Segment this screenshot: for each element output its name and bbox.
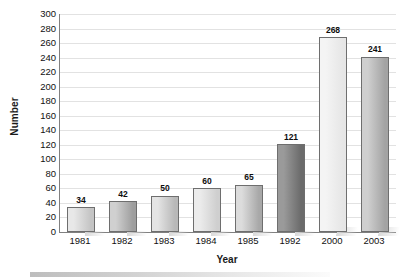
bar-2003[interactable] xyxy=(361,57,389,232)
bar-value-label-2003: 241 xyxy=(368,45,382,54)
bar-slot: 268 xyxy=(312,14,354,232)
bar-1985[interactable] xyxy=(235,185,263,232)
y-axis-tick-labels: 3002802602402202001801601401201008060402… xyxy=(24,14,56,232)
y-axis-tick-100: 100 xyxy=(24,155,56,165)
bar-1981[interactable] xyxy=(67,207,95,232)
bar-chart: Number 300280260240220200180160140120100… xyxy=(0,0,413,278)
y-axis-tick-60: 60 xyxy=(24,184,56,194)
y-axis-tick-120: 120 xyxy=(24,140,56,150)
y-axis-tick-160: 160 xyxy=(24,111,56,121)
bar-1984[interactable] xyxy=(193,188,221,232)
y-axis-tick-80: 80 xyxy=(24,169,56,179)
y-axis-tick-220: 220 xyxy=(24,67,56,77)
bar-slot: 60 xyxy=(186,14,228,232)
x-axis-tick-1985: 1985 xyxy=(237,236,258,246)
bars-layer: 3442506065121268241 xyxy=(60,14,396,232)
bar-slot: 241 xyxy=(354,14,396,232)
bar-1992[interactable] xyxy=(277,144,305,232)
x-axis-tick-1992: 1992 xyxy=(279,236,300,246)
y-axis-tick-40: 40 xyxy=(24,198,56,208)
bar-slot: 50 xyxy=(144,14,186,232)
y-axis-tick-240: 240 xyxy=(24,53,56,63)
x-axis-tick-1984: 1984 xyxy=(195,236,216,246)
y-axis-tick-280: 280 xyxy=(24,24,56,34)
x-axis-tick-2000: 2000 xyxy=(321,236,342,246)
gridline-0 xyxy=(60,232,396,233)
bar-slot: 42 xyxy=(102,14,144,232)
y-axis-tick-300: 300 xyxy=(24,9,56,19)
x-axis-title: Year xyxy=(59,254,395,265)
x-axis-tick-1981: 1981 xyxy=(69,236,90,246)
plot-area: 3442506065121268241 xyxy=(59,14,396,233)
y-axis-title-label: Number xyxy=(9,97,20,135)
bar-2000[interactable] xyxy=(319,37,347,232)
bar-value-label-1984: 60 xyxy=(202,177,211,186)
bar-value-label-1982: 42 xyxy=(118,190,127,199)
y-axis-tick-0: 0 xyxy=(24,227,56,237)
bar-1983[interactable] xyxy=(151,196,179,232)
y-axis-tick-260: 260 xyxy=(24,38,56,48)
x-axis-tick-labels: 19811982198319841985199220002003 xyxy=(59,236,395,252)
y-axis-tick-20: 20 xyxy=(24,213,56,223)
y-axis-tick-180: 180 xyxy=(24,96,56,106)
bar-value-label-2000: 268 xyxy=(326,26,340,35)
bar-value-label-1981: 34 xyxy=(76,196,85,205)
x-axis-tick-1982: 1982 xyxy=(111,236,132,246)
y-axis-tick-200: 200 xyxy=(24,82,56,92)
bottom-decorative-band xyxy=(30,272,330,277)
bar-value-label-1983: 50 xyxy=(160,184,169,193)
bar-value-label-1985: 65 xyxy=(244,173,253,182)
y-axis-title: Number xyxy=(4,0,24,232)
y-axis-tick-140: 140 xyxy=(24,126,56,136)
bar-slot: 34 xyxy=(60,14,102,232)
bar-slot: 65 xyxy=(228,14,270,232)
bar-slot: 121 xyxy=(270,14,312,232)
x-axis-tick-1983: 1983 xyxy=(153,236,174,246)
bar-1982[interactable] xyxy=(109,201,137,232)
x-axis-tick-2003: 2003 xyxy=(363,236,384,246)
bar-value-label-1992: 121 xyxy=(284,133,298,142)
